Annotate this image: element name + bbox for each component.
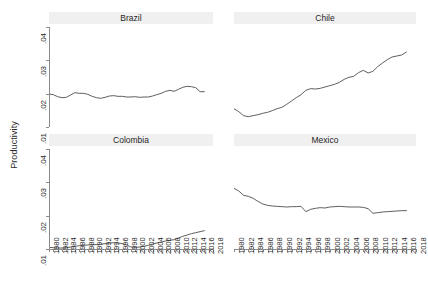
x-axis-tick [49,249,50,252]
x-axis-tick-label: 2014 [400,237,409,254]
x-axis-tick-label: 2002 [342,237,351,254]
plot-area-mexico [234,149,416,249]
panel-title-chile: Chile [234,12,416,24]
x-axis-tick-label: 1988 [275,237,284,254]
x-axis-tick-label: 1990 [285,237,294,254]
x-axis-tick-label: 1980 [237,237,246,254]
x-axis-tick-label: 2010 [381,237,390,254]
x-axis-tick-label: 1984 [256,237,265,254]
panel-mexico: Mexico [234,134,416,249]
y-axis-top: .04.03.02.01 [49,27,50,127]
panel-colombia: Colombia [49,134,213,249]
y-axis-tick-label: .01 [39,127,48,151]
x-axis-tick-label: 2000 [138,237,147,254]
plot-area-brazil [49,27,213,127]
x-axis-tick-label: 2006 [362,237,371,254]
x-axis-tick-label: 1996 [121,237,130,254]
x-axis-tick-label: 2012 [190,237,199,254]
series-mexico [234,149,416,249]
x-axis-tick-label: 2008 [173,237,182,254]
series-brazil [49,27,213,127]
x-axis-tick-label: 1986 [266,237,275,254]
x-axis-tick-label: 1992 [295,237,304,254]
x-axis-tick [234,249,235,252]
x-axis-tick-label: 1996 [314,237,323,254]
y-axis-bottom: .04.03.02.01 [49,149,50,249]
y-axis-tick-label: .03 [39,182,48,206]
panel-title-brazil: Brazil [49,12,213,24]
series-colombia [49,149,213,249]
x-axis-tick-label: 2018 [216,237,225,254]
x-axis-tick-label: 1998 [323,237,332,254]
x-axis-tick-label: 2008 [371,237,380,254]
x-axis-tick-label: 1994 [304,237,313,254]
series-line [234,52,406,117]
series-line [49,86,204,98]
y-axis-tick-label: .02 [39,93,48,117]
x-axis-tick-label: 1982 [247,237,256,254]
x-axis-tick-label: 2018 [419,237,428,254]
x-axis-left: 1980198219841986198819901992199419961998… [49,249,213,253]
panel-chile: Chile [234,12,416,127]
y-axis-spine [49,149,50,249]
panel-brazil: Brazil [49,12,213,127]
y-axis-spine [49,27,50,127]
x-axis-tick-label: 2000 [333,237,342,254]
x-axis-tick-label: 1990 [95,237,104,254]
series-chile [234,27,416,127]
x-axis-tick-label: 2002 [147,237,156,254]
x-axis-right: 1980198219841986198819901992199419961998… [234,249,416,253]
y-axis-tick-label: .04 [39,27,48,51]
y-axis-tick-label: .01 [39,249,48,273]
x-axis-tick-label: 2016 [409,237,418,254]
x-axis-tick-label: 2004 [352,237,361,254]
x-axis-tick-label: 2006 [164,237,173,254]
x-axis-tick-label: 1984 [69,237,78,254]
panel-title-colombia: Colombia [49,134,213,146]
x-axis-tick-label: 1980 [52,237,61,254]
y-axis-tick-label: .03 [39,60,48,84]
y-axis-tick-label: .04 [39,149,48,173]
x-axis-tick-label: 2012 [390,237,399,254]
plot-area-chile [234,27,416,127]
series-line [234,188,406,213]
y-axis-tick-label: .02 [39,215,48,239]
plot-area-colombia [49,149,213,249]
x-axis-tick-label: 1986 [78,237,87,254]
y-axis-title: Productivity [9,95,19,195]
panel-title-mexico: Mexico [234,134,416,146]
